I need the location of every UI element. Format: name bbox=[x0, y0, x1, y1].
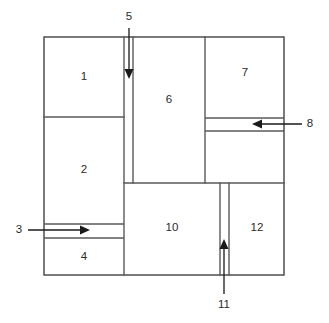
floor-plan-diagram: 3 5 8 11 1 2 4 6 7 10 12 bbox=[0, 0, 329, 323]
room-label-12: 12 bbox=[251, 221, 264, 233]
room-label-7: 7 bbox=[242, 66, 248, 78]
flow-arrow-8 bbox=[252, 120, 302, 129]
room-label-4: 4 bbox=[81, 250, 88, 262]
room-label-6: 6 bbox=[166, 93, 172, 105]
room-label-1: 1 bbox=[81, 70, 87, 82]
room-label-10: 10 bbox=[166, 221, 179, 233]
flow-label-5: 5 bbox=[126, 10, 132, 22]
flow-arrow-3-head bbox=[80, 226, 90, 235]
flow-arrow-3 bbox=[28, 226, 90, 235]
flow-arrow-8-head bbox=[252, 120, 262, 129]
flow-label-3: 3 bbox=[16, 223, 22, 235]
floor-plan-svg: 3 5 8 11 1 2 4 6 7 10 12 bbox=[0, 0, 329, 323]
flow-arrow-11 bbox=[220, 239, 229, 294]
flow-label-11: 11 bbox=[218, 298, 230, 310]
flow-label-8: 8 bbox=[307, 117, 313, 129]
flow-arrow-5-head bbox=[125, 69, 134, 79]
flow-arrow-5 bbox=[125, 28, 134, 79]
room-label-2: 2 bbox=[81, 163, 87, 175]
flow-arrow-11-head bbox=[220, 239, 229, 249]
